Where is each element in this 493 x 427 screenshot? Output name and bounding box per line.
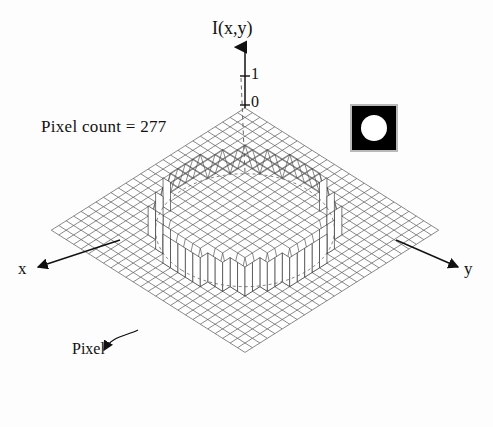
surface-plot-figure: I(x,y) 1 0 Pixel count = 277 x y Pixel bbox=[0, 0, 493, 427]
vertical-axis-group bbox=[240, 47, 250, 108]
vertical-axis-label: I(x,y) bbox=[212, 18, 252, 39]
y-axis-arrow bbox=[396, 240, 458, 267]
x-axis-label: x bbox=[18, 259, 27, 279]
tick-label-one: 1 bbox=[251, 65, 259, 83]
tick-label-zero: 0 bbox=[251, 93, 259, 111]
inset-disk-shape bbox=[361, 115, 387, 141]
plot-canvas bbox=[0, 0, 493, 427]
y-axis-label: y bbox=[464, 259, 473, 279]
pixel-count-annotation: Pixel count = 277 bbox=[41, 117, 167, 137]
pixel-callout-label: Pixel bbox=[72, 340, 105, 358]
binary-disk-inset-image bbox=[350, 104, 398, 152]
pixel-callout-arrow bbox=[104, 330, 138, 350]
